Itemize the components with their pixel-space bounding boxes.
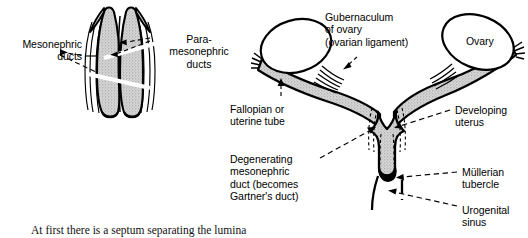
label-developing-uterus: Developing uterus xyxy=(455,104,528,129)
label-mullerian-tubercle: Müllerian tubercle xyxy=(462,166,528,191)
arrowhead-urogenital-sinus xyxy=(388,188,397,194)
label-fallopian-or-uterine-tube: Fallopian or uterine tube xyxy=(230,103,334,128)
figure-caption: At first there is a septum separating th… xyxy=(31,224,246,237)
label-mesonephric-ducts: Mesonephric ducts xyxy=(2,38,82,63)
paramesonephric-duct-left xyxy=(97,8,120,117)
leader-mullerian-tubercle xyxy=(402,172,457,177)
urogenital-sinus-wall-left xyxy=(372,176,378,210)
label-para-mesonephric-ducts: Para- mesonephric ducts xyxy=(157,33,241,70)
arrowhead-mullerian-tubercle xyxy=(396,174,404,180)
leader-urogenital-sinus xyxy=(394,192,457,206)
label-ovary: Ovary xyxy=(466,35,510,47)
label-gubernaculum-of-ovary: Gubernaculum of ovary (ovarian ligament) xyxy=(325,11,475,48)
label-urogenital-sinus: Urogenital sinus xyxy=(462,204,528,229)
paramesonephric-duct-right xyxy=(120,8,143,117)
label-degenerating-mesonephric-duct: Degenerating mesonephric duct (becomes G… xyxy=(230,153,336,203)
